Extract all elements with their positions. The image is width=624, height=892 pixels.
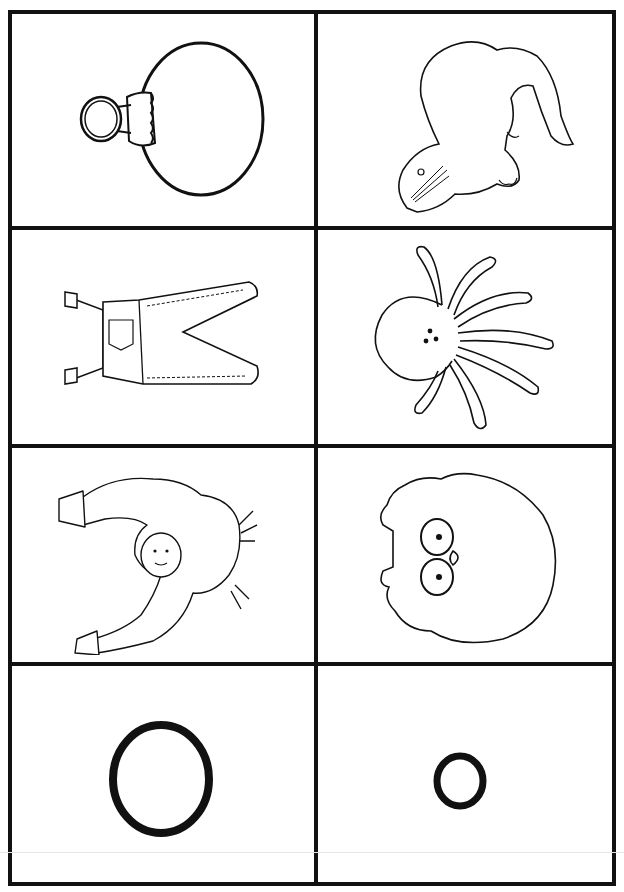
uppercase-o-glyph [101,715,221,845]
lowercase-o-glyph [425,746,495,816]
card-overalls: overalls [12,230,314,444]
card-ornament: ornament [12,14,314,226]
owl-icon [347,455,587,655]
ornament-icon [43,25,283,215]
card-uppercase-o: O [12,666,314,886]
octopus-icon [342,237,592,437]
card-octopus: octopus [318,230,616,444]
card-owl: owl [318,448,616,662]
card-lowercase-o: o [318,666,616,886]
picture-card-grid: ornament otter overalls [8,10,616,886]
card-orangutan: orangutan [12,448,314,662]
orangutan-icon [43,455,283,655]
card-otter: otter [318,14,616,226]
scan-artifact-line [0,852,624,853]
overalls-icon [43,262,283,412]
otter-icon [347,20,587,220]
